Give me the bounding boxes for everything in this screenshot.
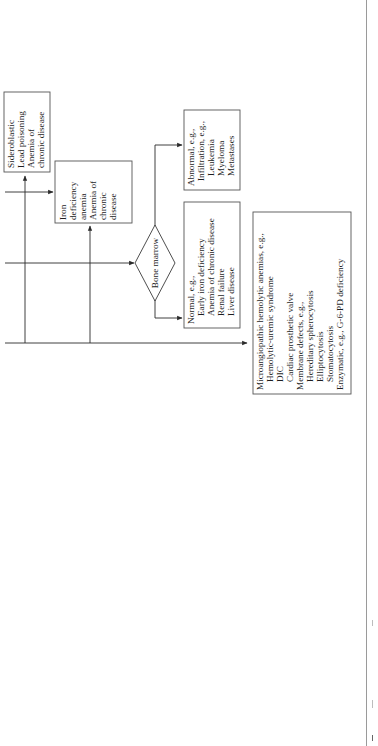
bone-marrow-decision: Bone marrow	[135, 225, 175, 301]
box-line: chronic	[98, 192, 108, 220]
bone-marrow-label: Bone marrow	[150, 238, 160, 289]
box-line: Normal, e.g.,	[186, 276, 196, 324]
box-line: Leukemia	[206, 139, 216, 176]
box-line: Elliptocytosis	[315, 331, 325, 382]
iron-deficiency-box: Iron deficiency anemia Anemia of chronic…	[55, 161, 132, 223]
box-line: DIC	[275, 366, 285, 382]
box-line: deficiency	[68, 181, 78, 220]
box-line: Myeloma	[216, 141, 226, 176]
box-line: anemia	[78, 193, 88, 220]
hemolytic-box: Microangiopathic hemolytic anemias, e.g.…	[253, 212, 351, 394]
box-line: Anemia of	[88, 180, 98, 220]
box-line: Microangiopathic hemolytic anemias, e.g.…	[255, 233, 265, 390]
box-line: Infiltration, e.g.,	[196, 121, 206, 181]
box-line: Anemia of chronic disease	[206, 218, 216, 316]
box-line: disease	[108, 193, 118, 220]
box-line: Early iron deficiency	[196, 238, 206, 316]
sideroblastic-box: Sideroblastic Lead poisoning Anemia of c…	[4, 92, 50, 172]
box-line: Metastases	[226, 135, 236, 176]
box-line: Liver disease	[226, 267, 236, 316]
box-line: Sideroblastic	[6, 120, 16, 168]
normal-box: Normal, e.g., Early iron deficiency Anem…	[184, 202, 240, 328]
box-line: Renal failure	[216, 268, 226, 316]
box-line: Hereditary spherocytosis	[305, 290, 315, 382]
arrow-to-abnormal	[155, 145, 182, 226]
box-line: Stomatocytosis	[325, 325, 335, 382]
box-line: Enzymatic, e.g., G-6-PD deficiency	[335, 258, 345, 390]
box-line: Lead poisoning	[16, 111, 26, 168]
box-line: Membrane defects, e.g.,	[295, 302, 305, 390]
box-line: chronic disease	[36, 112, 46, 168]
arrow-to-normal	[155, 300, 182, 318]
box-line: Cardiac prosthetic valve	[285, 293, 295, 382]
box-line: Abnormal, e.g.,	[186, 129, 196, 186]
box-line: Anemia of	[26, 128, 36, 168]
box-line: Iron	[58, 204, 68, 220]
box-line: Hemolytic-uremic syndrome	[265, 276, 275, 382]
abnormal-box: Abnormal, e.g., Infiltration, e.g., Leuk…	[184, 110, 240, 190]
flowchart: Bone marrow Sideroblastic Lead poisoning…	[0, 0, 378, 746]
